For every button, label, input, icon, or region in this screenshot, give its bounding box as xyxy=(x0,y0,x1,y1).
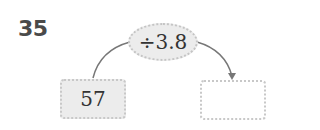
output-arrow xyxy=(197,42,232,76)
input-value: 57 xyxy=(80,87,105,111)
operation-bubble: ÷3.8 xyxy=(128,23,198,61)
arrowhead-icon xyxy=(228,73,236,80)
operation-label: ÷3.8 xyxy=(139,30,188,54)
answer-box[interactable] xyxy=(200,80,266,120)
input-connector xyxy=(93,42,130,78)
input-box: 57 xyxy=(60,79,126,119)
